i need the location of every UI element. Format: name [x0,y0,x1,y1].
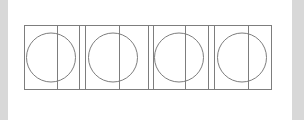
panel-3-circle [155,33,204,82]
diagram-canvas [0,0,304,120]
panel-3 [155,26,204,90]
figure-group [25,26,272,90]
panel-4 [218,26,267,90]
panel-1-circle [27,33,76,82]
four-panel-circle-grid-figure [0,0,304,120]
panel-2 [89,26,138,90]
panel-2-circle [89,33,138,82]
panel-1 [27,26,76,90]
panel-4-circle [218,33,267,82]
